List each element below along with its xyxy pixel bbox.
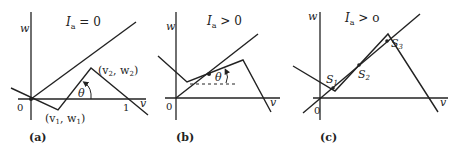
axis-label-w: w xyxy=(20,22,30,35)
caption-a: (a) xyxy=(29,131,47,144)
condition-label: Ia > 0 xyxy=(206,14,242,30)
fixed-point xyxy=(29,97,33,101)
caption-c: (c) xyxy=(320,131,337,144)
angle-arc-icon xyxy=(85,83,91,99)
s3-label: S3 xyxy=(391,37,404,51)
s1-label: S1 xyxy=(326,73,338,87)
axis-label-w: w xyxy=(308,10,318,23)
axis-label-w: w xyxy=(166,20,176,33)
angle-arc-icon xyxy=(226,71,228,83)
panel-b: w Ia > 0 θ 0 v (b) xyxy=(158,12,280,144)
fixed-point xyxy=(207,72,211,76)
point1-label: (v1, w1) xyxy=(45,112,85,126)
axis-label-v: v xyxy=(270,96,277,109)
s2-label: S2 xyxy=(358,68,371,82)
fixed-point-s2 xyxy=(357,63,361,67)
point2-label: (v2, w2) xyxy=(98,64,138,78)
angle-theta-label: θ xyxy=(78,87,85,100)
panel-c: w Ia > o S3 S2 S1 0 v (c) xyxy=(293,10,448,144)
origin-label: 0 xyxy=(17,102,23,113)
origin-label: 0 xyxy=(314,105,320,116)
condition-label: Ia > o xyxy=(344,11,379,27)
origin-label: 0 xyxy=(166,101,172,112)
fixed-point-s3 xyxy=(385,39,389,43)
tick-1-label: 1 xyxy=(123,102,129,113)
phase-plane-diagram: w Ia = 0 (v2, w2) θ 0 1 v (v1, w1) (a) w… xyxy=(0,0,458,152)
angle-theta-label: θ xyxy=(215,71,222,84)
condition-label: Ia = 0 xyxy=(65,15,101,31)
axis-label-v: v xyxy=(440,96,447,109)
caption-b: (b) xyxy=(176,131,194,144)
axis-label-v: v xyxy=(140,97,147,110)
panel-a: w Ia = 0 (v2, w2) θ 0 1 v (v1, w1) (a) xyxy=(11,12,148,144)
